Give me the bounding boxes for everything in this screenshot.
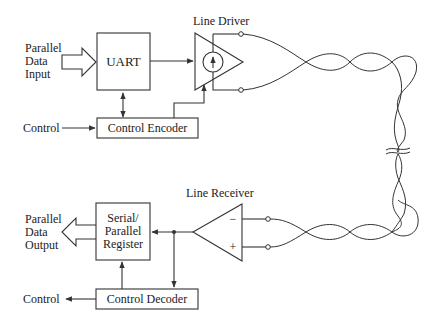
svg-text:UART: UART [106, 54, 141, 69]
control-input-label: Control [23, 121, 60, 135]
svg-text:−: − [230, 212, 237, 226]
line-receiver-block: − + [193, 204, 266, 261]
driver-terminal-top [239, 32, 244, 37]
svg-text:Serial/: Serial/ [107, 211, 139, 225]
svg-text:Control Encoder: Control Encoder [108, 121, 188, 135]
control-encoder-block: Control Encoder [97, 118, 198, 138]
receiver-terminal-plus [266, 245, 271, 250]
svg-text:Data: Data [25, 54, 48, 68]
uart-block: UART [97, 33, 150, 90]
svg-text:Parallel: Parallel [105, 224, 142, 238]
receiver-terminal-minus [266, 217, 271, 222]
svg-text:Input: Input [25, 67, 51, 81]
control-output-label: Control [23, 292, 60, 306]
serial-parallel-register-block: Serial/ Parallel Register [96, 203, 150, 260]
driver-terminal-bottom [239, 88, 244, 93]
svg-text:Data: Data [25, 225, 48, 239]
control-decoder-block: Control Decoder [96, 289, 198, 309]
line-driver-block [195, 33, 243, 90]
encoder-to-driver-enable-line [174, 85, 204, 118]
svg-text:Register: Register [103, 237, 143, 251]
svg-text:+: + [230, 240, 237, 254]
svg-text:Output: Output [25, 238, 59, 252]
data-transmission-diagram: Parallel Data Input UART Control Control… [0, 0, 439, 324]
line-receiver-label: Line Receiver [186, 186, 254, 200]
line-driver-label: Line Driver [193, 14, 249, 28]
parallel-output-arrow-icon [62, 218, 96, 246]
svg-text:Parallel: Parallel [25, 212, 62, 226]
parallel-input-arrow-icon [62, 48, 96, 76]
svg-text:Control Decoder: Control Decoder [107, 292, 187, 306]
parallel-data-input-label: Parallel Data Input [25, 41, 62, 81]
twisted-pair-cable [243, 34, 418, 247]
parallel-data-output-label: Parallel Data Output [25, 212, 62, 252]
svg-text:Parallel: Parallel [25, 41, 62, 55]
